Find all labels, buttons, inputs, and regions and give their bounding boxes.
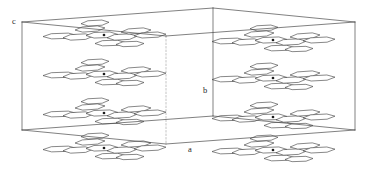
molecule-center-dot <box>103 112 106 115</box>
molecule-center-dot <box>272 116 275 119</box>
molecule-center-dot <box>272 39 275 42</box>
molecule-top-right-front <box>212 25 335 52</box>
molecule-center-dot <box>272 149 275 152</box>
molecule-group <box>43 20 335 162</box>
molecule-ring-3 <box>81 98 109 104</box>
molecule-ring-2 <box>244 31 274 37</box>
molecule-mid-right <box>212 63 335 90</box>
molecule-center-dot <box>103 147 106 150</box>
molecule-low-right <box>212 102 335 129</box>
molecule-ring-2 <box>75 26 105 32</box>
molecule-ring-3 <box>81 20 109 26</box>
molecule-ring-2 <box>244 69 274 75</box>
axis-label-a: a <box>188 144 192 154</box>
unit-cell-edge-1 <box>213 8 355 22</box>
molecule-ring-3 <box>250 63 278 69</box>
crystal-packing-figure: cba <box>0 0 372 174</box>
molecule-ring-2 <box>244 108 274 114</box>
axis-label-b: b <box>203 85 207 95</box>
axis-label-c: c <box>12 16 16 26</box>
molecule-ring-3 <box>250 102 278 108</box>
molecule-ring-2 <box>75 104 105 110</box>
molecule-center-dot <box>103 73 106 76</box>
molecule-ring-2 <box>75 65 105 71</box>
molecule-bottom-left <box>43 133 166 160</box>
molecule-ring-3 <box>81 59 109 65</box>
molecule-mid-left <box>43 59 166 86</box>
molecule-ring-2 <box>244 141 274 147</box>
molecule-center-dot <box>272 77 275 80</box>
molecule-center-dot <box>103 34 106 37</box>
molecule-ring-2 <box>75 139 105 145</box>
unit-cell-edge-0 <box>22 8 213 22</box>
packing-diagram-canvas: cba <box>0 0 372 174</box>
molecule-top-left-front <box>43 20 166 47</box>
